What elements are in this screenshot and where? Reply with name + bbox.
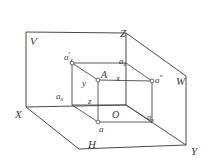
label-a-double-prime: a″ (155, 75, 163, 85)
h-plane-left-edge (26, 107, 79, 149)
vertex-A (96, 78, 100, 82)
label-axis-y: Y (191, 146, 197, 157)
w-plane-outline (126, 33, 186, 145)
edge-az-to-adouble (126, 63, 152, 81)
label-coordinate-z: z (88, 97, 92, 106)
label-a-y: ay (147, 113, 154, 123)
label-a-z: az (119, 57, 126, 67)
label-a-y-sub: y (152, 117, 155, 123)
label-a-x-prime-sub: x (70, 57, 73, 63)
v-plane-outline (26, 32, 126, 107)
label-a-z-sub: z (124, 61, 126, 67)
label-plane-v: V (30, 36, 37, 47)
vertex-a-double-prime (150, 79, 154, 83)
label-a-x-prime: a'x (64, 52, 73, 63)
label-coordinate-y: y (82, 79, 86, 88)
label-axis-z: Z (120, 28, 126, 39)
label-a-double-prime-mark: ″ (160, 74, 163, 83)
label-axis-x: X (15, 109, 22, 120)
label-plane-w: W (176, 76, 185, 87)
label-a-x-sub: x (61, 96, 64, 102)
v-plane-top-edge (26, 32, 126, 33)
inner-box-front-face (98, 80, 152, 122)
edge-ax-to-a (72, 105, 98, 122)
label-origin-O: O (112, 110, 119, 120)
diagram-canvas: V H W X Y Z A O a a'x a″ ax az ay x y z (0, 0, 206, 167)
label-point-A: A (101, 70, 107, 80)
label-projection-a: a (99, 125, 104, 134)
edge-A-to-adouble (98, 80, 152, 81)
label-plane-h: H (88, 139, 96, 150)
inner-box-v-face (72, 63, 126, 105)
label-a-x: ax (56, 92, 63, 102)
label-coordinate-x: x (116, 74, 120, 83)
h-plane-outline (26, 107, 186, 149)
